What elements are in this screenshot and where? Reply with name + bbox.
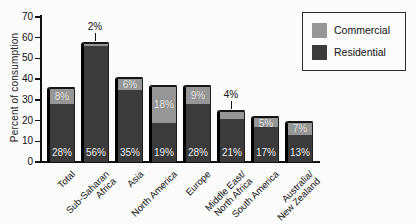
commercial-value-label: 9%: [186, 91, 210, 101]
y-axis-line: [40, 15, 42, 163]
residential-value-label: 35%: [118, 148, 142, 158]
bar-europe: 28%9%: [183, 85, 211, 162]
y-tick-mark: [35, 161, 40, 162]
y-tick-label: 0: [7, 157, 33, 167]
residential-value-label: 13%: [288, 148, 312, 158]
y-tick-mark: [35, 141, 40, 142]
commercial-value-label: 5%: [254, 119, 278, 129]
y-tick-mark: [35, 78, 40, 79]
bar-sub-saharan: 56%: [81, 42, 109, 162]
residential-value-label: 28%: [50, 148, 74, 158]
y-tick-label: 70: [7, 12, 33, 22]
bar-asia: 35%6%: [115, 77, 143, 162]
y-tick-mark: [35, 16, 40, 17]
bar-australia-: 13%7%: [285, 121, 313, 162]
y-tick-mark: [35, 37, 40, 38]
bar-north-america: 19%18%: [149, 85, 177, 162]
y-tick-label: 30: [7, 95, 33, 105]
residential-value-label: 19%: [152, 148, 176, 158]
residential-swatch-icon: [312, 45, 327, 60]
residential-value-label: 56%: [84, 148, 108, 158]
y-tick-label: 60: [7, 33, 33, 43]
residential-value-label: 21%: [220, 148, 244, 158]
y-tick-mark: [35, 120, 40, 121]
y-tick-mark: [35, 58, 40, 59]
bar-middle-east-: 21%: [217, 110, 245, 162]
residential-segment: [84, 46, 108, 162]
commercial-label-leader-line: [95, 33, 96, 41]
y-tick-label: 50: [7, 53, 33, 63]
bar-total: 28%8%: [47, 87, 75, 162]
commercial-swatch-icon: [312, 23, 327, 38]
commercial-value-label: 8%: [50, 92, 74, 102]
y-tick-label: 10: [7, 136, 33, 146]
legend-label-residential: Residential: [334, 46, 386, 58]
commercial-value-label: 18%: [152, 100, 176, 110]
y-tick-label: 20: [7, 116, 33, 126]
commercial-value-label: 4%: [216, 90, 246, 100]
commercial-value-label: 6%: [118, 80, 142, 90]
legend-item-residential: Residential: [312, 41, 405, 63]
bar-south-america: 17%5%: [251, 116, 279, 162]
x-category-label: Total: [56, 169, 77, 190]
commercial-value-label: 7%: [288, 124, 312, 134]
x-category-label: Asia: [125, 169, 145, 189]
legend-item-commercial: Commercial: [312, 19, 405, 41]
residential-value-label: 28%: [186, 148, 210, 158]
legend-label-commercial: Commercial: [334, 24, 390, 36]
legend: Commercial Residential: [302, 12, 406, 71]
y-tick-mark: [35, 99, 40, 100]
y-tick-label: 40: [7, 74, 33, 84]
commercial-value-label: 2%: [80, 22, 110, 32]
x-category-label: Europe: [184, 169, 213, 198]
stacked-bar-chart: Percent of consumption Commercial Reside…: [0, 0, 416, 224]
residential-value-label: 17%: [254, 148, 278, 158]
commercial-label-leader-line: [231, 101, 232, 109]
